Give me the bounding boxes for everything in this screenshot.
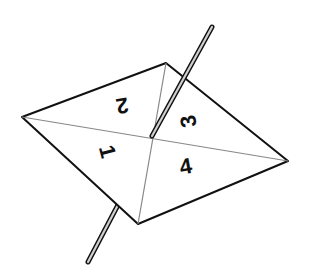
spinner-diagram: 2 3 1 4	[0, 0, 314, 278]
spinner-card	[22, 63, 288, 224]
stick-lower	[88, 203, 119, 262]
